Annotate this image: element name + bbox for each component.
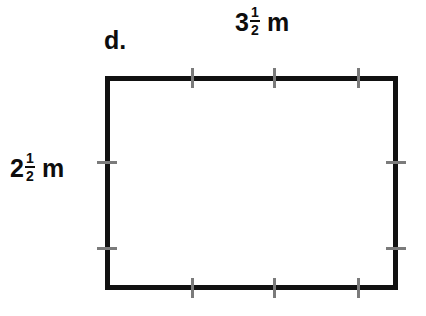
tick-top-1	[191, 68, 194, 88]
tick-right-1	[386, 161, 406, 164]
part-letter-label: d.	[104, 28, 126, 53]
tick-right-2	[386, 247, 406, 250]
left-measurement-label: 2 1 2 m	[10, 152, 64, 184]
left-fraction-numerator: 1	[25, 151, 35, 166]
top-fraction-denominator: 2	[250, 22, 260, 37]
left-mixed-number: 2 1 2 m	[10, 152, 64, 184]
left-fraction-denominator: 2	[25, 168, 35, 183]
top-unit-label: m	[267, 10, 289, 35]
tick-left-2	[97, 247, 117, 250]
tick-top-2	[273, 68, 276, 88]
top-mixed-number: 3 1 2 m	[235, 6, 289, 38]
top-measurement-label: 3 1 2 m	[235, 6, 289, 38]
tick-left-1	[97, 161, 117, 164]
top-whole-number: 3	[235, 10, 249, 35]
tick-bottom-2	[273, 278, 276, 298]
tick-top-3	[357, 68, 360, 88]
top-fraction-numerator: 1	[250, 5, 260, 20]
tick-bottom-3	[357, 278, 360, 298]
left-whole-number: 2	[10, 156, 24, 181]
left-fraction: 1 2	[25, 151, 35, 183]
figure-canvas: d. 3 1 2 m 2 1 2 m	[0, 0, 426, 316]
top-fraction: 1 2	[250, 5, 260, 37]
tick-bottom-1	[191, 278, 194, 298]
rectangle-outline	[105, 76, 398, 290]
left-unit-label: m	[42, 156, 64, 181]
